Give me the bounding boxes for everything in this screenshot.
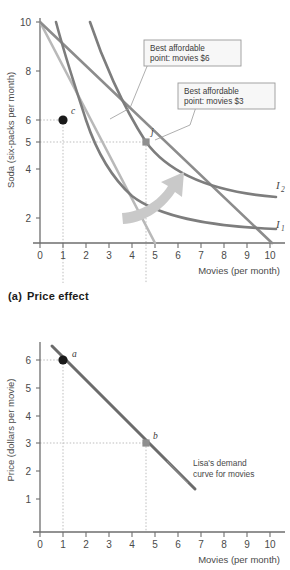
bottom-chart-axes [33, 342, 285, 537]
price-effect-figure: 10 8 6 5 4 2 0 1 2 3 4 5 6 7 8 9 10 Soda… [0, 0, 290, 570]
bottom-xtick-6: 6 [175, 539, 181, 550]
svg-text:Lisa's demand: Lisa's demand [193, 458, 247, 468]
top-ytick-4: 4 [25, 164, 31, 175]
bottom-xtick-3: 3 [106, 539, 112, 550]
data-point-j-label: j [149, 127, 154, 137]
data-point-a-label: a [72, 349, 77, 359]
demand-curve-chart: 6 5 4 3 2 1 0 1 2 3 4 5 6 7 8 9 10 Price… [0, 320, 290, 570]
svg-text:curve for movies: curve for movies [193, 469, 254, 479]
svg-text:Best affordable: Best affordable [150, 44, 205, 53]
bottom-xtick-9: 9 [244, 539, 250, 550]
svg-text:2: 2 [281, 185, 285, 194]
top-xtick-6: 6 [175, 250, 181, 261]
bottom-chart-ylabel: Price (dollars per movie) [5, 379, 16, 482]
svg-text:point: movies $6: point: movies $6 [150, 54, 210, 63]
top-xtick-4: 4 [129, 250, 135, 261]
bottom-xtick-1: 1 [60, 539, 66, 550]
top-xtick-1: 1 [60, 250, 66, 261]
bottom-xtick-5: 5 [152, 539, 158, 550]
bottom-xtick-2: 2 [83, 539, 89, 550]
top-xtick-3: 3 [106, 250, 112, 261]
top-ytick-2: 2 [25, 213, 31, 224]
top-xtick-9: 9 [244, 250, 250, 261]
top-ytick-8: 8 [25, 66, 31, 77]
bottom-xtick-0: 0 [37, 539, 43, 550]
top-ytick-5: 5 [25, 137, 31, 148]
data-point-b [142, 439, 149, 446]
demand-curve-annotation: Lisa's demand curve for movies [193, 458, 254, 479]
data-point-j [142, 138, 149, 145]
svg-text:Best affordable: Best affordable [184, 87, 239, 96]
data-point-b-label: b [153, 431, 158, 441]
bottom-ytick-4: 4 [25, 411, 31, 422]
indifference-curve-chart: 10 8 6 5 4 2 0 1 2 3 4 5 6 7 8 9 10 Soda… [0, 0, 290, 290]
bottom-ytick-3: 3 [25, 438, 31, 449]
data-point-c-label: c [71, 106, 76, 116]
panel-caption-text: Price effect [27, 290, 89, 302]
svg-text:1: 1 [281, 224, 285, 233]
top-chart-xlabel: Movies (per month) [198, 265, 280, 276]
curve-label-i1: I 1 [275, 218, 285, 233]
bottom-ytick-5: 5 [25, 383, 31, 394]
bottom-xtick-8: 8 [221, 539, 227, 550]
panel-caption-letter: (a) [8, 290, 22, 302]
top-chart-ylabel: Soda (six-packs per month) [5, 72, 16, 188]
callout-best-affordable-3: Best affordable point: movies $3 [178, 83, 275, 109]
curve-label-i2: I 2 [275, 179, 285, 194]
top-xtick-2: 2 [83, 250, 89, 261]
panel-caption: (a)Price effect [8, 290, 89, 302]
callout-best-affordable-6: Best affordable point: movies $6 [144, 40, 241, 66]
bottom-ytick-2: 2 [25, 466, 31, 477]
bottom-ytick-6: 6 [25, 355, 31, 366]
top-ytick-10: 10 [20, 17, 32, 28]
demand-annotation-leader-line [167, 461, 188, 483]
bottom-chart-xlabel: Movies (per month) [198, 554, 280, 565]
data-point-a [58, 355, 67, 364]
data-point-c [58, 115, 67, 124]
top-xtick-0: 0 [37, 250, 43, 261]
bottom-xtick-10: 10 [264, 539, 276, 550]
bottom-xtick-7: 7 [198, 539, 204, 550]
bottom-ytick-1: 1 [25, 494, 31, 505]
bottom-xtick-4: 4 [129, 539, 135, 550]
top-xtick-10: 10 [264, 250, 276, 261]
top-xtick-5: 5 [152, 250, 158, 261]
top-xtick-7: 7 [198, 250, 204, 261]
top-xtick-8: 8 [221, 250, 227, 261]
svg-text:point: movies $3: point: movies $3 [184, 97, 244, 106]
top-ytick-6: 6 [25, 115, 31, 126]
